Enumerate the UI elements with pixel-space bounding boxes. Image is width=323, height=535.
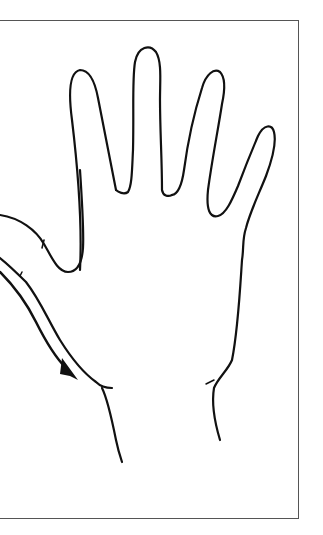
thumb-web <box>0 170 83 272</box>
arrow-shaft <box>0 272 66 368</box>
hand-illustration <box>0 0 323 535</box>
little-finger <box>207 126 274 260</box>
palm-outer-edge <box>213 260 242 440</box>
wrist-left-edge <box>102 388 122 462</box>
tick-small <box>20 272 22 276</box>
ring-finger <box>172 71 224 195</box>
thumb-lower-edge <box>0 258 112 388</box>
wrist-tick-right <box>206 380 214 384</box>
index-finger <box>70 70 116 270</box>
middle-finger <box>116 47 172 196</box>
